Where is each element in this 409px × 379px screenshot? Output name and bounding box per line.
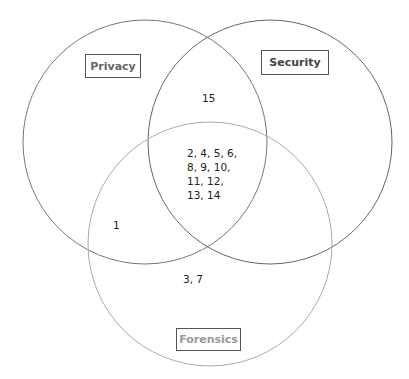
region-all-three-line: 11, 12, <box>187 174 237 188</box>
forensics-label: Forensics <box>176 328 241 351</box>
region-all-three-line: 13, 14 <box>187 188 237 202</box>
privacy-label: Privacy <box>85 54 141 78</box>
privacy-circle <box>23 20 267 264</box>
region-all-three-line: 8, 9, 10, <box>187 160 237 174</box>
region-forensics-only: 3, 7 <box>183 272 203 286</box>
region-privacy-security: 15 <box>202 91 215 105</box>
region-all-three-line: 2, 4, 5, 6, <box>187 146 237 160</box>
region-all-three: 2, 4, 5, 6, 8, 9, 10, 11, 12, 13, 14 <box>187 146 237 202</box>
region-privacy-forensics: 1 <box>113 218 120 232</box>
security-label: Security <box>261 50 329 75</box>
